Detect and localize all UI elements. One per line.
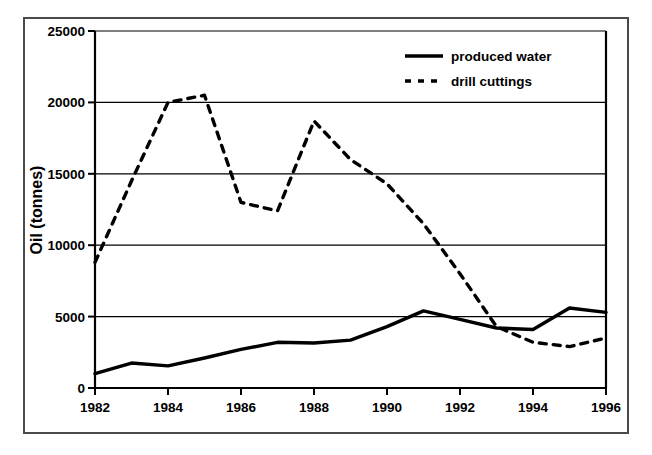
x-tick-label-1990: 1990 [372, 400, 402, 415]
y-tick-label-25000: 25000 [47, 24, 85, 39]
y-tick-label-15000: 15000 [47, 167, 85, 182]
line-chart: 25000 20000 15000 10000 5000 0 1982 1984… [0, 0, 652, 455]
figure-container: 25000 20000 15000 10000 5000 0 1982 1984… [0, 0, 652, 455]
legend-label-produced-water: produced water [451, 49, 552, 64]
x-tick-label-1988: 1988 [299, 400, 330, 415]
y-axis-title: Oil (tonnes) [28, 166, 45, 255]
y-tick-label-0: 0 [77, 381, 85, 396]
legend-label-drill-cuttings: drill cuttings [451, 74, 532, 89]
y-tick-label-20000: 20000 [47, 95, 85, 110]
x-tick-label-1982: 1982 [80, 400, 110, 415]
y-tick-label-5000: 5000 [55, 310, 85, 325]
x-tick-label-1992: 1992 [445, 400, 475, 415]
x-tick-label-1984: 1984 [153, 400, 184, 415]
x-tick-label-1996: 1996 [591, 400, 622, 415]
x-tick-label-1986: 1986 [226, 400, 257, 415]
x-tick-label-1994: 1994 [518, 400, 549, 415]
y-tick-label-10000: 10000 [47, 238, 85, 253]
